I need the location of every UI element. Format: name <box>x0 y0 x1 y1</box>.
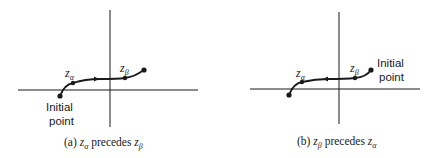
panel-b-z-alpha-label: zα <box>296 67 305 84</box>
alpha-subscript: α <box>301 73 305 82</box>
beta-subscript: β <box>355 68 359 77</box>
panel-a-initial-point-label: Initial point <box>46 100 74 128</box>
panel-b-z-beta-label: zβ <box>350 62 359 79</box>
panel-b-initial-point-label: Initial point <box>377 56 404 84</box>
panel-a-caption: (a) zα precedes zβ <box>64 136 143 153</box>
caption-middle: precedes <box>322 135 368 147</box>
panel-a-z-alpha-label: zα <box>65 67 74 84</box>
panel-a-direction-arrow-icon <box>94 77 99 82</box>
panel-b-initial-point-dot <box>368 67 373 72</box>
caption-prefix: (a) <box>64 136 80 148</box>
initial-text: Initial <box>377 56 404 70</box>
initial-text: Initial <box>46 100 74 114</box>
panel-a-z-beta-label: zβ <box>120 62 129 79</box>
point-text: point <box>377 70 404 84</box>
caption-middle: precedes <box>88 136 134 148</box>
beta-subscript: β <box>125 68 129 77</box>
panel-b-end-point-dot <box>286 92 291 97</box>
caption-subscript: β <box>139 142 143 151</box>
panel-a-graphics <box>18 10 198 127</box>
panel-b-direction-arrow-icon <box>323 77 328 82</box>
alpha-subscript: α <box>70 73 74 82</box>
point-text: point <box>46 114 74 128</box>
panel-b-caption: (b) zβ precedes zα <box>297 135 376 152</box>
caption-prefix: (b) <box>297 135 313 147</box>
panel-a-end-point-dot <box>141 67 146 72</box>
panel-a-initial-point-dot <box>57 93 62 98</box>
caption-subscript: α <box>372 141 376 150</box>
